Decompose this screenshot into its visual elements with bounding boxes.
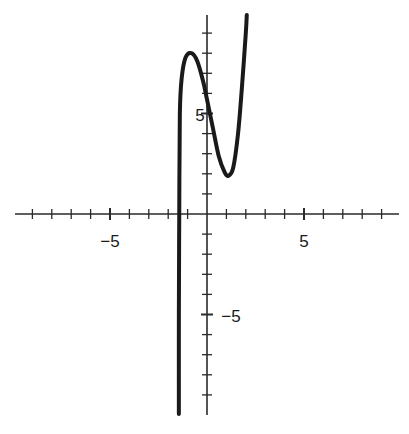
y-tick-label-5: 5	[195, 106, 204, 125]
x-tick-label-neg5: −5	[100, 232, 119, 251]
function-graph: −5 5 5 −5	[0, 0, 409, 434]
axes	[15, 15, 399, 415]
x-tick-label-5: 5	[299, 232, 308, 251]
y-tick-label-neg5: −5	[221, 307, 240, 326]
